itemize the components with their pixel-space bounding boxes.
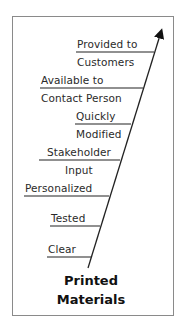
branch-3-above: Quickly	[76, 110, 116, 122]
branch-4-below: Input	[65, 164, 93, 176]
branch-2-below: Contact Person	[41, 92, 122, 104]
branch-1-above: Provided to	[77, 38, 138, 50]
branch-2-above: Available to	[41, 74, 104, 86]
branch-3-below: Modified	[76, 128, 122, 140]
branch-4-above: Stakeholder	[47, 146, 111, 158]
branch-5-above: Personalized	[25, 182, 92, 194]
diagram-title-line-2: Materials	[41, 290, 141, 309]
branch-7-above: Clear	[48, 243, 76, 255]
branch-1-below: Customers	[77, 56, 134, 68]
branch-6-above: Tested	[51, 212, 85, 224]
diagram-title-line-1: Printed	[41, 271, 141, 290]
